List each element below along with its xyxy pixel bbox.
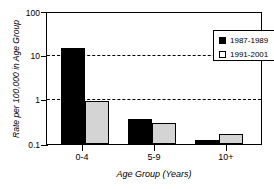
y-tick-label-0.1: 0.1: [0, 140, 40, 150]
legend-item-1991-2001: 1991-2001: [219, 48, 274, 60]
legend-swatch-filled-black-square: [219, 37, 226, 44]
bar-1987-1989-age-10-plus: [195, 140, 219, 144]
y-tick-mark-0.1: [41, 145, 48, 146]
y-tick-label-100: 100: [0, 8, 40, 18]
legend-item-1987-1989: 1987-1989: [219, 34, 274, 46]
legend: 1987-1989 1991-2001: [213, 30, 274, 61]
x-axis-title: Age Group (Years): [46, 169, 262, 179]
x-tick-label-0-4: 0-4: [52, 152, 112, 162]
legend-label-1987-1989: 1987-1989: [230, 36, 268, 45]
x-tick-label-10-plus: 10+: [196, 152, 256, 162]
y-tick-label-10: 10: [0, 51, 40, 61]
bar-1987-1989-age-5-9: [128, 119, 152, 144]
bar-chart-figure: Rate per 100,000 in Age Group 100 10 1 0…: [0, 0, 274, 189]
bar-1991-2001-age-10-plus: [219, 134, 243, 144]
x-tick-mark-10-plus: [226, 145, 227, 151]
y-axis-title: Rate per 100,000 in Age Group: [11, 9, 21, 149]
plot-area: 1987-1989 1991-2001: [46, 12, 262, 145]
x-tick-mark-5-9: [154, 145, 155, 151]
bar-1991-2001-age-5-9: [152, 123, 176, 144]
bar-1991-2001-age-0-4: [85, 101, 109, 144]
bar-1987-1989-age-0-4: [61, 48, 85, 144]
x-tick-mark-0-4: [82, 145, 83, 151]
legend-label-1991-2001: 1991-2001: [230, 50, 268, 59]
y-tick-label-1: 1: [0, 95, 40, 105]
legend-swatch-open-white-square: [219, 51, 226, 58]
x-tick-label-5-9: 5-9: [124, 152, 184, 162]
